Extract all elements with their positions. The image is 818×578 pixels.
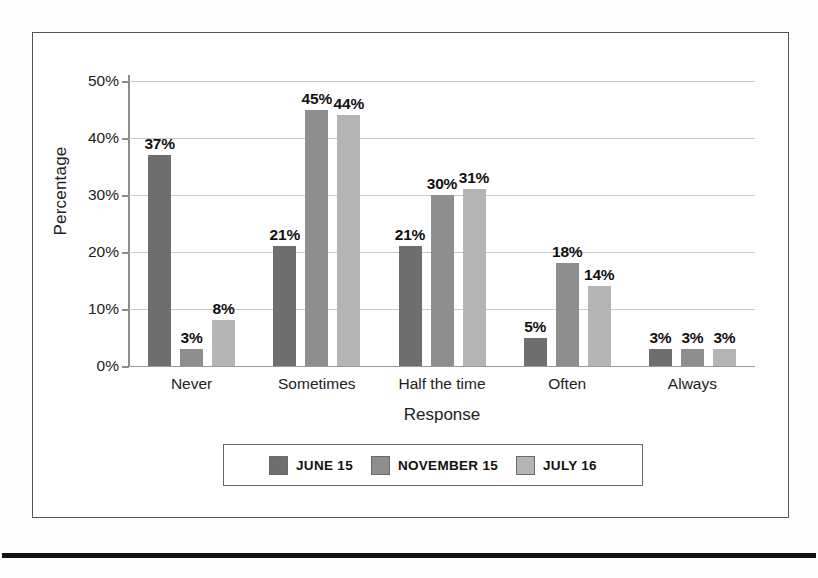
bar-value-label: 18%	[552, 243, 582, 261]
bar-value-label: 3%	[681, 329, 703, 347]
y-tick-mark	[122, 252, 129, 254]
bar[interactable]: 5%	[524, 338, 547, 367]
y-tick-mark	[122, 309, 129, 311]
bar[interactable]: 37%	[148, 155, 171, 366]
y-tick-label: 20%	[49, 243, 119, 261]
legend-swatch	[371, 456, 390, 475]
bar-slot: 3%	[681, 81, 704, 366]
bar-groups: 37%3%8%Never21%45%44%Sometimes21%30%31%H…	[129, 81, 755, 366]
bar-value-label: 3%	[649, 329, 671, 347]
bar-group: 3%3%3%Always	[630, 81, 755, 366]
y-tick-label: 10%	[49, 300, 119, 318]
bar-value-label: 45%	[302, 90, 332, 108]
bar-slot: 18%	[556, 81, 579, 366]
bar-group: 21%30%31%Half the time	[379, 81, 504, 366]
plot-area: 0%10%20%30%40%50% 37%3%8%Never21%45%44%S…	[129, 81, 755, 366]
bar-group: 37%3%8%Never	[129, 81, 254, 366]
legend-swatch	[516, 456, 535, 475]
bar-group: 5%18%14%Often	[505, 81, 630, 366]
legend-entry[interactable]: JUNE 15	[269, 456, 353, 475]
bar-slot: 3%	[180, 81, 203, 366]
bar[interactable]: 21%	[399, 246, 422, 366]
y-tick-mark	[122, 81, 129, 83]
bar[interactable]: 31%	[463, 189, 486, 366]
y-tick-mark	[122, 195, 129, 197]
bar-slot: 21%	[273, 81, 296, 366]
y-tick-label: 40%	[49, 129, 119, 147]
x-tick-label: Sometimes	[254, 375, 379, 393]
chart-legend: JUNE 15NOVEMBER 15JULY 16	[223, 444, 643, 486]
bar-slot: 3%	[713, 81, 736, 366]
bar[interactable]: 3%	[180, 349, 203, 366]
bar-slot: 31%	[463, 81, 486, 366]
bar-slot: 37%	[148, 81, 171, 366]
bar[interactable]: 3%	[681, 349, 704, 366]
bar[interactable]: 3%	[649, 349, 672, 366]
bar-value-label: 8%	[213, 300, 235, 318]
x-tick-label: Half the time	[379, 375, 504, 393]
x-axis-title: Response	[129, 405, 755, 425]
bar-value-label: 21%	[270, 226, 300, 244]
x-tick-label: Always	[630, 375, 755, 393]
x-tick-label: Often	[505, 375, 630, 393]
bar-slot: 30%	[431, 81, 454, 366]
bar[interactable]: 18%	[556, 263, 579, 366]
legend-entry[interactable]: NOVEMBER 15	[371, 456, 498, 475]
bar[interactable]: 44%	[337, 115, 360, 366]
legend-swatch	[269, 456, 288, 475]
gridline	[129, 366, 755, 367]
bar-value-label: 30%	[427, 175, 457, 193]
y-tick-label: 0%	[49, 357, 119, 375]
bar-slot: 5%	[524, 81, 547, 366]
bar[interactable]: 3%	[713, 349, 736, 366]
bar-slot: 44%	[337, 81, 360, 366]
bar-group: 21%45%44%Sometimes	[254, 81, 379, 366]
bar-slot: 21%	[399, 81, 422, 366]
scanned-page: Percentage 0%10%20%30%40%50% 37%3%8%Neve…	[0, 0, 818, 578]
bar[interactable]: 45%	[305, 110, 328, 367]
bar[interactable]: 21%	[273, 246, 296, 366]
bar-value-label: 44%	[334, 95, 364, 113]
y-tick-mark	[122, 138, 129, 140]
y-tick-label: 50%	[49, 72, 119, 90]
bar-value-label: 14%	[584, 266, 614, 284]
legend-label: JUNE 15	[296, 458, 353, 473]
bar-value-label: 3%	[713, 329, 735, 347]
bar[interactable]: 30%	[431, 195, 454, 366]
legend-entry[interactable]: JULY 16	[516, 456, 597, 475]
bar-value-label: 31%	[459, 169, 489, 187]
y-tick-mark	[122, 366, 129, 368]
page-divider-rule	[2, 553, 816, 558]
bar-value-label: 3%	[181, 329, 203, 347]
bar[interactable]: 14%	[588, 286, 611, 366]
bar-slot: 3%	[649, 81, 672, 366]
legend-label: NOVEMBER 15	[398, 458, 498, 473]
bar-value-label: 37%	[144, 135, 174, 153]
bar-slot: 14%	[588, 81, 611, 366]
bar-slot: 45%	[305, 81, 328, 366]
legend-label: JULY 16	[543, 458, 597, 473]
bar[interactable]: 8%	[212, 320, 235, 366]
y-tick-label: 30%	[49, 186, 119, 204]
chart-frame: Percentage 0%10%20%30%40%50% 37%3%8%Neve…	[32, 32, 789, 518]
bar-value-label: 21%	[395, 226, 425, 244]
bar-chart: Percentage 0%10%20%30%40%50% 37%3%8%Neve…	[33, 33, 788, 517]
x-tick-label: Never	[129, 375, 254, 393]
bar-value-label: 5%	[524, 318, 546, 336]
bar-slot: 8%	[212, 81, 235, 366]
